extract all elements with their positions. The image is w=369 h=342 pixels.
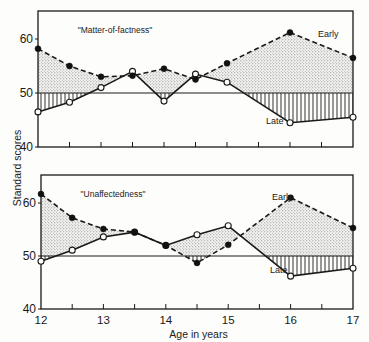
early-point xyxy=(100,226,106,232)
late-point xyxy=(194,232,200,238)
y-tick-label: 60 xyxy=(23,196,37,210)
early-point xyxy=(225,242,231,248)
early-label: Early xyxy=(272,192,293,202)
late-point xyxy=(287,120,293,126)
x-axis-label: Age in years xyxy=(0,328,369,340)
early-point xyxy=(130,73,136,79)
early-point xyxy=(350,225,356,231)
early-point xyxy=(194,260,200,266)
late-label: Late xyxy=(266,116,284,126)
early-point xyxy=(350,55,356,61)
early-point xyxy=(98,74,104,80)
hatched-region xyxy=(38,93,353,123)
late-point xyxy=(193,71,199,77)
late-point xyxy=(67,99,73,105)
y-axis-label: Standard scores xyxy=(11,123,23,213)
y-tick-label: 50 xyxy=(20,86,34,100)
late-point xyxy=(35,109,41,115)
late-point xyxy=(98,85,104,91)
x-tick-label: 14 xyxy=(159,314,172,326)
late-point xyxy=(69,247,75,253)
panel-matter-of-factness: 405060"Matter-of-factness"EarlyLate xyxy=(20,11,356,154)
late-point xyxy=(288,273,294,279)
early-point xyxy=(38,191,44,197)
late-point xyxy=(38,258,44,264)
stippled-region xyxy=(38,33,353,93)
early-point xyxy=(224,60,230,66)
x-tick-label: 17 xyxy=(347,314,360,326)
panel-title: "Matter-of-factness" xyxy=(78,25,153,35)
late-point xyxy=(224,79,230,85)
late-point xyxy=(100,234,106,240)
early-point xyxy=(163,242,169,248)
late-point xyxy=(161,98,167,104)
chart-figure: 405060"Matter-of-factness"EarlyLate40506… xyxy=(0,0,369,342)
x-tick-label: 15 xyxy=(222,314,235,326)
early-point xyxy=(69,215,75,221)
panel-unaffectedness: 405060121314151617"Unaffectedness"EarlyL… xyxy=(23,175,360,326)
late-point xyxy=(225,223,231,229)
late-label: Late xyxy=(270,265,288,275)
early-point xyxy=(287,30,293,36)
x-tick-label: 16 xyxy=(284,314,297,326)
early-label: Early xyxy=(318,29,339,39)
early-point xyxy=(161,66,167,72)
early-point xyxy=(67,63,73,69)
early-point xyxy=(193,77,199,83)
x-tick-label: 13 xyxy=(97,314,110,326)
y-tick-label: 60 xyxy=(20,32,34,46)
early-point xyxy=(132,229,138,235)
late-point xyxy=(350,114,356,120)
late-point xyxy=(350,265,356,271)
early-point xyxy=(35,46,41,52)
y-tick-label: 50 xyxy=(23,249,37,263)
stippled-region xyxy=(41,194,353,256)
x-tick-label: 12 xyxy=(35,314,48,326)
panel-title: "Unaffectedness" xyxy=(81,189,146,199)
